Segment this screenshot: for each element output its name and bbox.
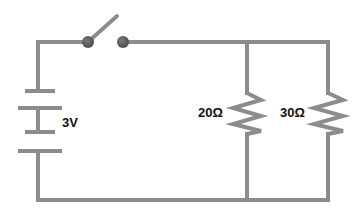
wire-top-left [38, 42, 88, 91]
resistor-30ohm-icon [314, 93, 343, 134]
wire-top-right [123, 42, 328, 93]
battery-voltage-label: 3V [62, 116, 78, 129]
resistor-30ohm-label: 30Ω [280, 106, 305, 119]
switch-icon [82, 16, 129, 48]
resistor-20ohm-label: 20Ω [198, 106, 223, 119]
circuit-diagram: 3V 20Ω 30Ω [0, 0, 363, 214]
circuit-drawing [0, 0, 363, 214]
wire-bottom [38, 151, 328, 200]
resistor-20ohm-icon [233, 93, 261, 134]
switch-contact-right [117, 36, 129, 48]
switch-contact-left [82, 36, 94, 48]
